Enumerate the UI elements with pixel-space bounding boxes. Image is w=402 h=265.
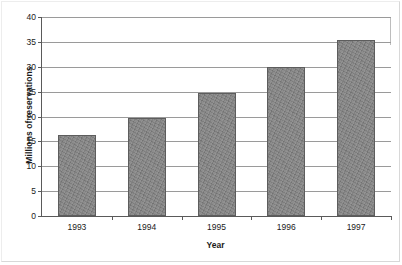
y-axis-tick-mark (38, 166, 42, 167)
bar-chart-figure: Millions of reservations 051015202530354… (0, 0, 402, 265)
y-axis-tick-label: 35 (27, 38, 36, 47)
x-axis-tick-mark (182, 216, 183, 220)
y-axis-tick-mark (38, 92, 42, 93)
y-axis-tick-label: 10 (27, 162, 36, 171)
x-axis-tick-mark (391, 216, 392, 220)
y-axis-tick-mark (38, 216, 42, 217)
y-axis-tick-label: 15 (27, 137, 36, 146)
y-axis-tick-label: 25 (27, 87, 36, 96)
y-axis-tick-label: 0 (31, 212, 36, 221)
x-axis-tick-mark (112, 216, 113, 220)
x-axis-title: Year (41, 240, 390, 250)
bar (337, 40, 375, 216)
y-axis-tick-label: 20 (27, 112, 36, 121)
y-axis-tick-mark (38, 141, 42, 142)
x-axis-tick-label: 1993 (67, 223, 86, 232)
bar (58, 135, 96, 216)
x-axis-tick-mark (321, 216, 322, 220)
x-axis-tick-label: 1996 (277, 223, 296, 232)
y-axis-tick-mark (38, 191, 42, 192)
x-axis-tick-label: 1995 (207, 223, 226, 232)
x-axis-tick-mark (251, 216, 252, 220)
y-axis-tick-label: 40 (27, 13, 36, 22)
y-axis-tick-mark (38, 67, 42, 68)
y-axis-tick-mark (38, 117, 42, 118)
bar (198, 93, 236, 216)
y-axis-tick-label: 5 (31, 187, 36, 196)
bar (267, 67, 305, 216)
y-axis-tick-mark (38, 42, 42, 43)
x-axis-tick-label: 1994 (137, 223, 156, 232)
y-axis-tick-mark (38, 17, 42, 18)
y-axis-tick-label: 30 (27, 63, 36, 72)
bar (128, 118, 166, 217)
x-axis-tick-label: 1997 (347, 223, 366, 232)
plot-area: 051015202530354019931994199519961997 (41, 17, 391, 217)
gridline (42, 17, 391, 18)
